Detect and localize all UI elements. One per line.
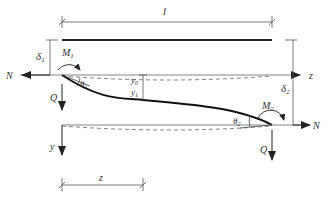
y1-label: y1: [130, 87, 138, 98]
z-dim-label: z: [98, 172, 103, 183]
y0-label: y0: [130, 75, 138, 86]
length-label: l: [163, 5, 166, 17]
svg-text:δ2: δ2: [281, 82, 290, 96]
dashed-reference-upper: [62, 76, 272, 80]
theta1-label: θ1: [80, 79, 87, 90]
length-dimension: l: [59, 5, 275, 28]
moment1-label: M1: [61, 47, 74, 60]
deflected-shape: [62, 75, 272, 125]
beam-column-diagram: l δ1 z N θ1 M1 y0 y1 Q N δ2 θ2: [0, 0, 329, 201]
z-dimension: z: [59, 172, 146, 191]
axial-force-right-label: N: [312, 120, 321, 131]
moment2-label: M2: [261, 100, 274, 113]
shear-right-label: Q: [260, 144, 268, 155]
shear-left-label: Q: [50, 92, 58, 103]
theta2-label: θ2: [233, 116, 240, 127]
svg-text:δ1: δ1: [36, 50, 45, 64]
z-axis-label: z: [308, 70, 313, 81]
y-axis-label: y: [49, 141, 55, 152]
moment1-arrow: [58, 65, 80, 70]
axial-force-left-label: N: [5, 70, 14, 81]
delta1-dimension: δ1: [36, 40, 58, 75]
delta2-dimension: δ2: [281, 40, 297, 125]
